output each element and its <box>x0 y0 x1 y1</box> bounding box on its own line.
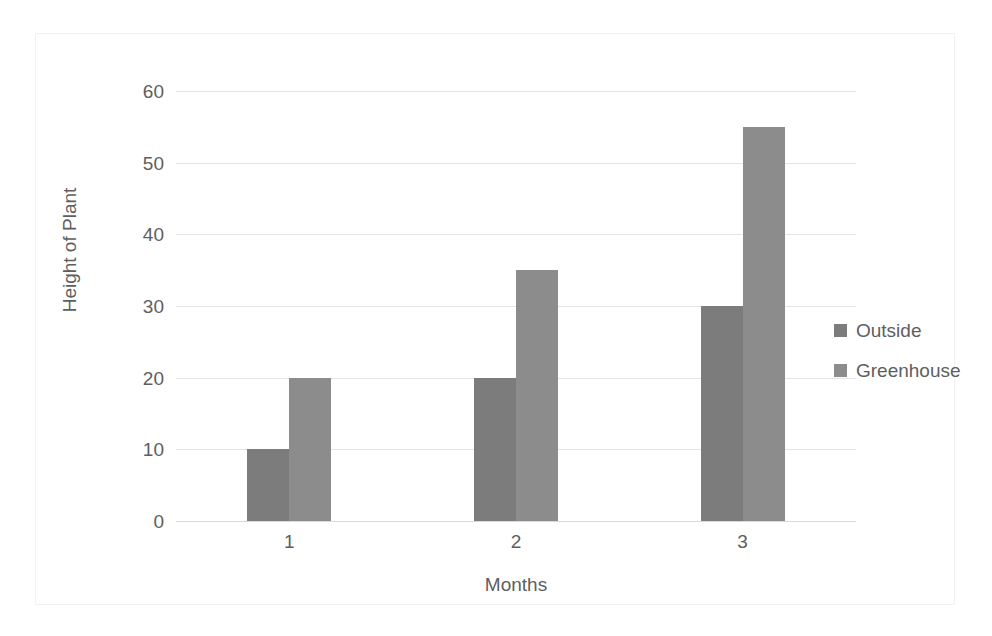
y-tick-label-0: 0 <box>104 512 164 531</box>
chart-legend: OutsideGreenhouse <box>834 310 992 390</box>
x-axis-title: Months <box>176 574 856 596</box>
y-tick-label-20: 20 <box>104 368 164 387</box>
y-tick-label-30: 30 <box>104 297 164 316</box>
bar-outside-2[interactable] <box>474 378 516 521</box>
y-tick-label-60: 60 <box>104 82 164 101</box>
bar-greenhouse-3[interactable] <box>743 127 785 521</box>
legend-item-greenhouse[interactable]: Greenhouse <box>834 350 992 390</box>
legend-swatch-icon-outside <box>834 324 847 337</box>
bar-outside-3[interactable] <box>701 306 743 521</box>
y-tick-label-10: 10 <box>104 440 164 459</box>
legend-item-outside[interactable]: Outside <box>834 310 992 350</box>
plot-area <box>176 91 856 521</box>
y-tick-label-50: 50 <box>104 153 164 172</box>
y-axis-title: Height of Plant <box>59 120 81 380</box>
bar-outside-1[interactable] <box>247 449 289 521</box>
x-axis-tick-labels: 123 <box>176 532 856 560</box>
legend-label-outside: Outside <box>856 321 921 340</box>
legend-label-greenhouse: Greenhouse <box>856 361 961 380</box>
x-tick-label-3: 3 <box>683 532 803 551</box>
x-tick-label-1: 1 <box>229 532 349 551</box>
clipped-header-text <box>0 0 992 4</box>
gridline-60 <box>176 91 856 92</box>
legend-swatch-icon-greenhouse <box>834 364 847 377</box>
y-tick-label-40: 40 <box>104 225 164 244</box>
bar-greenhouse-1[interactable] <box>289 378 331 521</box>
gridline-0 <box>176 521 856 522</box>
y-axis-tick-labels: 0102030405060 <box>98 91 164 521</box>
x-tick-label-2: 2 <box>456 532 576 551</box>
bar-greenhouse-2[interactable] <box>516 270 558 521</box>
chart-frame: 0102030405060 Height of Plant 123 Months… <box>35 33 955 605</box>
